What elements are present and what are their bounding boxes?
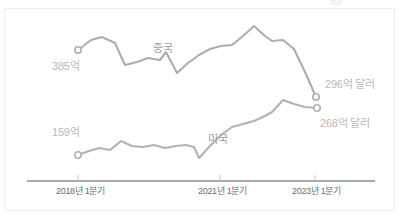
- usa-end-value-label: 268억 달러: [320, 117, 370, 129]
- china-series-line: [78, 26, 316, 97]
- china-end-marker: [313, 94, 319, 100]
- usa-series-line: [78, 100, 317, 158]
- china-start-value-label: 385억: [52, 60, 80, 72]
- usa-end-marker: [314, 105, 320, 111]
- x-axis-label-2021: 2021년 1분기: [198, 186, 247, 196]
- usa-start-value-label: 159억: [52, 126, 80, 138]
- usa-series-label: 미국: [208, 133, 228, 145]
- usa-start-marker: [75, 152, 81, 158]
- china-series-label: 중국: [153, 42, 173, 54]
- x-axis-label-2018: 2018년 1분기: [56, 186, 105, 196]
- chart-screenshot: 자료 385억 159억 296억 달러 268억 달러 중국 미국 2018년…: [0, 0, 401, 220]
- x-axis-label-2023: 2023년 1분기: [292, 186, 341, 196]
- china-start-marker: [75, 47, 81, 53]
- china-end-value-label: 296억 달러: [325, 78, 375, 90]
